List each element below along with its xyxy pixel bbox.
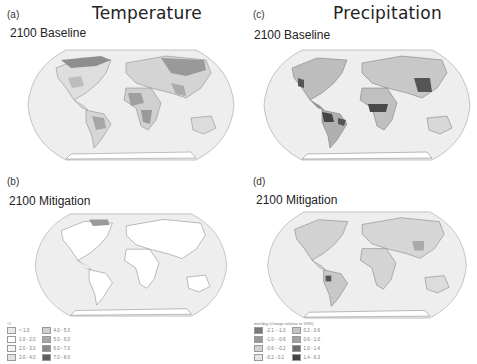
legend-swatch: [292, 354, 301, 361]
legend-item: -0.2 - 0.2: [254, 354, 286, 361]
legend-swatch: [7, 327, 16, 334]
legend-swatch: [292, 336, 301, 343]
legend-item: -2.1 - -1.0: [254, 327, 286, 334]
temperature-legend-unit: °C: [7, 321, 70, 326]
legend-item: 5.0 - 6.0: [42, 336, 71, 343]
legend-swatch: [7, 336, 16, 343]
legend-item: 1.0 - 1.4: [292, 345, 321, 352]
panel-a-scenario: 2100 Baseline: [10, 26, 86, 40]
legend-item: < 1.0: [7, 327, 36, 334]
legend-swatch: [292, 327, 301, 334]
legend-swatch: [254, 336, 263, 343]
panel-c-letter: (c): [253, 9, 265, 20]
legend-swatch: [7, 345, 16, 352]
precipitation-column-title: Precipitation: [333, 3, 442, 23]
panel-b-letter: (b): [7, 176, 19, 187]
legend-item: 0.6 - 1.0: [292, 336, 321, 343]
precipitation-legend: mm/day (change relative to 1990) -2.1 - …: [254, 321, 320, 361]
panel-d-scenario: 2100 Mitigation: [256, 193, 337, 207]
legend-swatch: [254, 327, 263, 334]
legend-item: 4.0 - 5.0: [42, 327, 71, 334]
panel-d-letter: (d): [253, 176, 265, 187]
legend-swatch: [7, 354, 16, 361]
legend-item: -0.6 - -0.2: [254, 345, 286, 352]
legend-swatch: [42, 345, 51, 352]
legend-swatch: [254, 354, 263, 361]
legend-item: -1.0 - -0.6: [254, 336, 286, 343]
legend-swatch: [42, 327, 51, 334]
map-precipitation-baseline: [262, 48, 472, 162]
legend-item: 3.0 - 4.0: [7, 354, 36, 361]
legend-item: 2.0 - 3.0: [7, 345, 36, 352]
legend-item: 6.0 - 7.0: [42, 345, 71, 352]
legend-swatch: [292, 345, 301, 352]
map-precipitation-mitigation: [262, 210, 472, 320]
panel-a-letter: (a): [7, 9, 19, 20]
legend-swatch: [42, 354, 51, 361]
map-temperature-baseline: [26, 48, 236, 162]
precipitation-legend-unit: mm/day (change relative to 1990): [254, 321, 320, 326]
panel-c-scenario: 2100 Baseline: [254, 28, 330, 42]
legend-swatch: [42, 336, 51, 343]
legend-item: 7.0 - 8.0: [42, 354, 71, 361]
temperature-legend: °C < 1.0 1.0 - 2.0 2.0 - 3.0 3.0 - 4.0 4…: [7, 321, 70, 361]
legend-item: 1.0 - 2.0: [7, 336, 36, 343]
map-temperature-mitigation: [26, 212, 236, 318]
legend-item: 0.2 - 0.6: [292, 327, 321, 334]
temperature-column-title: Temperature: [92, 3, 202, 23]
legend-item: 1.4 - 6.3: [292, 354, 321, 361]
legend-swatch: [254, 345, 263, 352]
panel-b-scenario: 2100 Mitigation: [9, 194, 90, 208]
